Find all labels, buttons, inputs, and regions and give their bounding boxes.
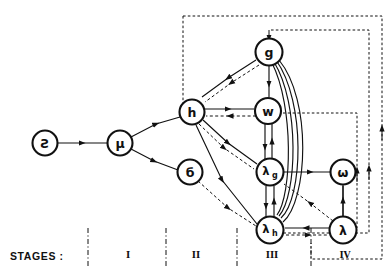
node-lambda-g-label: λ	[262, 164, 269, 178]
edge-lambdah-w-bow	[274, 62, 293, 216]
graph-edges	[58, 60, 343, 235]
node-w[interactable]: w	[255, 98, 281, 124]
stage-numeral-2: II	[192, 250, 200, 260]
node-lambda-h[interactable]: λ h	[257, 217, 284, 244]
edge-g-h-dashed	[205, 65, 259, 102]
node-zeta-label: Ƨ	[40, 136, 49, 151]
node-zeta[interactable]: Ƨ	[33, 131, 58, 156]
node-lambda-h-subscript: h	[272, 229, 278, 238]
edge-h-lambdag-dashed	[199, 124, 254, 169]
node-lambda-h-label: λ	[262, 222, 269, 236]
node-lambda[interactable]: λ	[330, 217, 357, 244]
stage-numeral-4: IV	[339, 250, 350, 260]
node-omega[interactable]: ω	[331, 160, 356, 185]
node-h[interactable]: h	[180, 100, 205, 125]
diagram-canvas: Ƨ μ б h g w	[0, 0, 392, 279]
edge-mu-sigma	[131, 149, 178, 170]
node-g-label: g	[265, 45, 274, 60]
stage-numeral-3: III	[266, 250, 279, 260]
node-g[interactable]: g	[256, 39, 283, 66]
stages-caption: STAGES :	[10, 250, 64, 262]
edge-h-lambdah	[196, 125, 257, 224]
node-mu-label: μ	[115, 136, 124, 151]
edge-g-h-solid	[202, 60, 256, 97]
node-h-label: h	[188, 105, 197, 120]
node-sigma[interactable]: б	[178, 160, 203, 185]
edge-sigma-lambdah	[198, 181, 256, 226]
graph-nodes: Ƨ μ б h g w	[33, 39, 357, 244]
node-lambda-label: λ	[339, 223, 347, 238]
node-omega-label: ω	[338, 165, 349, 180]
feedback-arrowheads	[269, 30, 382, 182]
node-mu[interactable]: μ	[108, 131, 133, 156]
edge-lambdah-g-bow2	[276, 60, 298, 218]
node-lambda-g[interactable]: λ g	[257, 159, 284, 186]
edge-mu-h	[131, 117, 180, 137]
edge-lambda-lambdag-dashed	[284, 184, 333, 221]
edge-lambdah-g-bow	[279, 60, 303, 222]
node-w-label: w	[262, 104, 274, 119]
node-lambda-g-subscript: g	[272, 171, 278, 180]
node-sigma-label: б	[186, 165, 195, 180]
graph-svg: Ƨ μ б h g w	[0, 0, 392, 279]
stage-numeral-1: I	[126, 250, 130, 260]
